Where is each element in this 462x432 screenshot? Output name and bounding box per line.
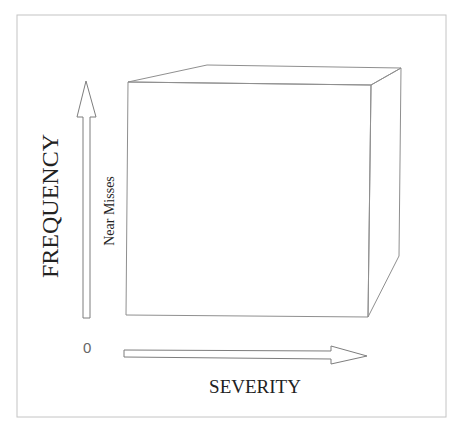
cube-top-face [128,65,401,85]
origin-label: 0 [83,339,91,356]
cube-right-face [368,68,401,317]
frequency-arrow-icon [77,81,96,318]
severity-arrow-icon [124,346,367,364]
risk-diagram: FREQUENCY Near Misses 0 SEVERITY [0,0,462,432]
y-axis-label: FREQUENCY [37,134,63,278]
x-axis-label: SEVERITY [209,376,301,397]
inner-label-near-misses: Near Misses [102,176,117,246]
cube-front-face [126,82,371,317]
cube-shape [126,65,401,317]
